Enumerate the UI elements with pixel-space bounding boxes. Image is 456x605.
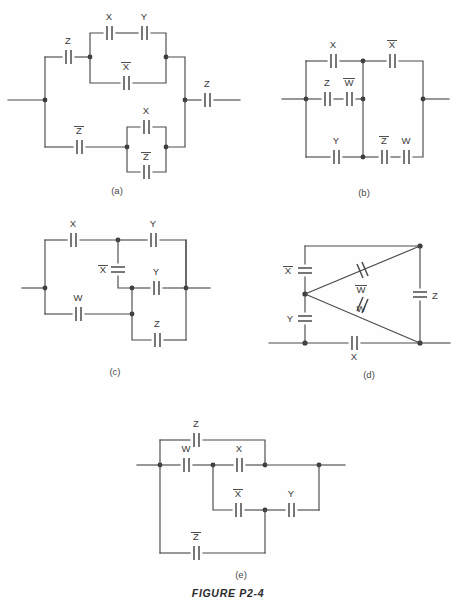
wire-a-xbot-in xyxy=(127,127,140,147)
label-e-x: X xyxy=(236,443,243,454)
label-d-y: Y xyxy=(287,313,294,324)
label-e-z: Z xyxy=(193,418,199,429)
label-b-z: Z xyxy=(324,77,330,88)
sublabel-e: (e) xyxy=(235,569,247,580)
label-c-z: Z xyxy=(154,318,160,329)
contact-c-x xyxy=(71,233,76,247)
contact-c-xbar xyxy=(111,267,125,272)
label-c-w: W xyxy=(74,292,83,303)
wire-a-zbar2-out xyxy=(153,147,166,172)
figure-caption: FIGURE P2-4 xyxy=(192,587,264,599)
label-a-z-right: Z xyxy=(204,78,210,89)
label-b-w: W xyxy=(402,135,411,146)
contact-b-y xyxy=(334,150,339,164)
sublabel-a: (a) xyxy=(111,185,123,196)
label-a-x-bot: X xyxy=(143,105,150,116)
wire-c-ytop-out xyxy=(160,240,186,288)
contact-d-y xyxy=(298,316,312,321)
wire-a-xbar-out xyxy=(133,57,166,83)
sublabel-c: (c) xyxy=(109,366,120,377)
wire-c-xbar-out xyxy=(118,276,132,288)
label-e-w: W xyxy=(182,443,191,454)
label-c-y-mid: Y xyxy=(153,266,160,277)
contact-a-zbar-bottom xyxy=(77,140,82,154)
label-b-y: Y xyxy=(333,135,340,146)
contact-a-xbar xyxy=(124,76,129,90)
contact-c-z xyxy=(155,333,160,347)
label-a-x-top: X xyxy=(106,11,113,22)
wire-a-right-down xyxy=(166,57,185,100)
contact-e-w xyxy=(184,458,189,472)
circuit-b: X X Z W Y Z W (b) xyxy=(282,39,449,198)
circuit-d: X Y W W Z X (d) xyxy=(269,243,450,380)
contact-b-z xyxy=(325,92,330,106)
label-a-z-left: Z xyxy=(65,35,71,46)
circuit-e: Z W X X Y Z (e) xyxy=(137,418,345,580)
wire-e-xbar-in xyxy=(213,465,232,510)
contact-b-x xyxy=(331,54,336,68)
contact-c-y-top xyxy=(151,233,156,247)
contact-d-x xyxy=(352,336,357,350)
contact-d-z xyxy=(413,292,427,297)
contact-e-x xyxy=(237,458,242,472)
wire-a-zbar2-in xyxy=(127,147,140,172)
circuit-a: Z X Y X Z Z X Z (a) xyxy=(8,11,240,196)
contact-a-x-bottom xyxy=(144,120,149,134)
wire-a-xbar-in xyxy=(90,57,120,83)
label-d-w: W xyxy=(357,303,366,314)
contact-b-xbar xyxy=(390,54,395,68)
contact-b-w xyxy=(404,150,409,164)
label-b-x: X xyxy=(330,39,337,50)
contact-e-z xyxy=(194,433,199,447)
contact-d-xbar xyxy=(298,268,312,273)
contact-e-xbar xyxy=(236,503,241,517)
sublabel-b: (b) xyxy=(358,187,370,198)
contact-e-y xyxy=(289,503,294,517)
circuit-diagram-canvas: Z X Y X Z Z X Z (a) xyxy=(0,0,456,605)
contact-b-zbar xyxy=(382,150,387,164)
label-e-y: Y xyxy=(288,488,295,499)
contact-a-zbar-bottom2 xyxy=(144,165,149,179)
contact-c-w xyxy=(76,307,81,321)
contact-e-zbar xyxy=(194,546,199,560)
wire-b-w-out xyxy=(413,99,423,157)
wire-a-bottom-to-right xyxy=(166,100,185,147)
label-d-z: Z xyxy=(432,290,438,301)
contact-a-y-top xyxy=(142,26,147,40)
wire-a-top-3 xyxy=(151,33,166,57)
contact-a-z-left xyxy=(66,50,71,64)
wire-a-xbot-out xyxy=(153,127,166,147)
node-a-left xyxy=(43,98,48,103)
label-c-x: X xyxy=(70,218,77,229)
contact-a-z-right xyxy=(205,93,210,107)
contact-a-x-top xyxy=(107,26,112,40)
wire-c-z-in xyxy=(132,314,151,340)
wire-e-z-out xyxy=(203,440,265,465)
wire-a-top-1 xyxy=(90,33,103,57)
wire-b-xbar-out xyxy=(399,61,423,99)
contact-c-y-mid xyxy=(154,281,159,295)
figure-p2-4: Z X Y X Z Z X Z (a) xyxy=(0,0,456,605)
sublabel-d: (d) xyxy=(363,369,375,380)
wire-d-w-diagonal xyxy=(305,294,420,343)
circuit-c: X Y X Y W Z (c) xyxy=(22,218,210,377)
label-d-x: X xyxy=(351,351,358,362)
label-a-y-top: Y xyxy=(141,11,148,22)
label-c-y-top: Y xyxy=(150,218,157,229)
contact-b-wbar xyxy=(347,92,352,106)
